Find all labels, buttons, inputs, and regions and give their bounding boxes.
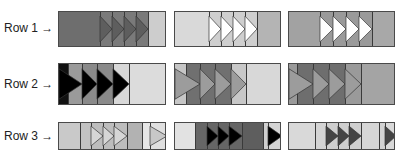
row-label: Row 3 → xyxy=(4,129,53,143)
block-segment xyxy=(127,123,142,149)
row-label: Row 1 → xyxy=(4,21,53,35)
flying-geese-rows-diagram: Row 1 →Row 2 →Row 3 → xyxy=(0,0,407,163)
block-segment xyxy=(242,123,263,149)
block-segment xyxy=(59,12,100,46)
quilt-block xyxy=(174,122,281,150)
block-segment xyxy=(142,123,150,149)
row-label: Row 2 → xyxy=(4,77,53,91)
quilt-block xyxy=(174,11,281,47)
quilt-block xyxy=(58,122,166,150)
block-segment xyxy=(195,123,207,149)
block-segment xyxy=(175,123,195,149)
block-segment xyxy=(59,123,80,149)
block-segment xyxy=(315,123,326,149)
quilt-block xyxy=(288,122,395,150)
quilt-block xyxy=(174,63,281,105)
quilt-block xyxy=(58,63,166,105)
block-segment xyxy=(80,123,91,149)
block-segment xyxy=(289,123,315,149)
quilt-block xyxy=(288,11,395,47)
quilt-block xyxy=(58,11,166,47)
quilt-block xyxy=(288,63,395,105)
block-segment xyxy=(175,12,209,46)
block-segment xyxy=(372,12,394,46)
block-segment xyxy=(129,64,165,104)
block-segment xyxy=(246,64,280,104)
block-segment xyxy=(289,12,320,46)
block-segment xyxy=(361,64,394,104)
block-segment xyxy=(361,123,379,149)
block-segment xyxy=(257,12,280,46)
block-segment xyxy=(148,12,165,46)
